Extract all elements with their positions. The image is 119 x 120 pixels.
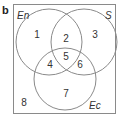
set-label-ec: Ec <box>89 100 101 111</box>
set-label-en: En <box>17 10 30 21</box>
region-label-2: 2 <box>63 33 69 44</box>
set-label-s: S <box>105 10 112 21</box>
region-label-6: 6 <box>77 59 83 70</box>
region-label-5: 5 <box>63 51 69 62</box>
venn-diagram: En S Ec 1 2 3 4 5 6 7 8 <box>0 0 119 120</box>
region-label-3: 3 <box>92 29 98 40</box>
region-label-7: 7 <box>63 88 69 99</box>
region-label-8: 8 <box>21 97 27 108</box>
region-label-1: 1 <box>34 29 40 40</box>
region-label-4: 4 <box>47 59 53 70</box>
